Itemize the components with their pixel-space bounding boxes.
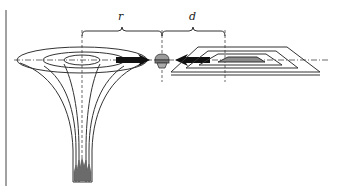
flame-icon [74,158,91,181]
fastener-icon [155,54,169,68]
r-label: r [118,10,123,23]
diagram-canvas [0,0,337,188]
d-brace [162,27,225,36]
r-brace [82,27,162,36]
left-arrow-icon [175,54,210,66]
right-arrow-icon [116,54,150,66]
d-label: d [189,10,196,23]
